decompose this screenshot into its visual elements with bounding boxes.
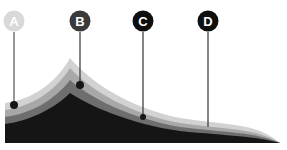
marker-c-dot	[140, 114, 146, 120]
marker-b-label: B	[75, 14, 84, 29]
marker-c-label: C	[138, 14, 148, 29]
marker-a-label: A	[9, 14, 19, 29]
marker-c: C	[133, 11, 154, 121]
marker-d: D	[198, 11, 219, 128]
marker-b-dot	[76, 81, 84, 89]
marker-d-label: D	[203, 14, 212, 29]
marker-a: A	[4, 11, 25, 110]
layered-area-diagram: A B C D	[0, 0, 287, 150]
marker-a-dot	[10, 101, 18, 109]
